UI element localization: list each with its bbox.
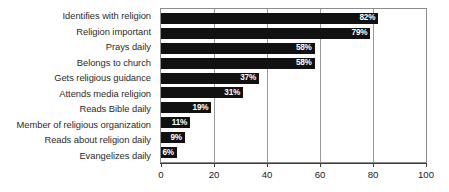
- bar-row: 31%: [161, 86, 426, 101]
- bar-value-label: 31%: [224, 89, 240, 97]
- bar: 9%: [161, 132, 185, 143]
- bar-chart: Identifies with religion Religion import…: [0, 0, 449, 192]
- category-label: Reads Bible daily: [0, 101, 156, 117]
- bar-row: 58%: [161, 56, 426, 71]
- bar-row: 19%: [161, 100, 426, 115]
- bar-value-label: 9%: [170, 134, 181, 142]
- bar-row: 79%: [161, 26, 426, 41]
- x-axis-tick-label: 20: [209, 169, 220, 180]
- bar: 19%: [161, 102, 211, 113]
- bar-row: 37%: [161, 71, 426, 86]
- category-label: Identifies with religion: [0, 8, 156, 24]
- x-axis-tick-label: 100: [418, 169, 434, 180]
- bar: 6%: [161, 147, 177, 158]
- category-label: Gets religious guidance: [0, 70, 156, 86]
- category-label: Attends media religion: [0, 86, 156, 102]
- bar-value-label: 6%: [162, 149, 173, 157]
- bar: 79%: [161, 28, 370, 39]
- bar: 58%: [161, 43, 315, 54]
- x-axis-tick: [267, 163, 268, 167]
- bar-row: 58%: [161, 41, 426, 56]
- bar: 37%: [161, 73, 259, 84]
- category-label: Belongs to church: [0, 55, 156, 71]
- bar-row: 9%: [161, 130, 426, 145]
- x-axis-line: [160, 163, 427, 164]
- bar: 58%: [161, 58, 315, 69]
- category-label: Prays daily: [0, 39, 156, 55]
- bar-value-label: 37%: [240, 74, 256, 82]
- x-axis-tick-label: 60: [315, 169, 326, 180]
- bar-series: 82% 79% 58% 58% 37% 31% 19% 11% 9% 6%: [161, 9, 426, 162]
- x-axis-tick: [214, 163, 215, 167]
- category-label: Evangelizes daily: [0, 148, 156, 164]
- x-axis-tick-label: 40: [262, 169, 273, 180]
- plot-area: 82% 79% 58% 58% 37% 31% 19% 11% 9% 6%: [160, 8, 427, 163]
- x-axis: 020406080100: [160, 163, 427, 192]
- x-axis-tick-label: 0: [158, 169, 163, 180]
- x-axis-tick: [161, 163, 162, 167]
- x-axis-tick-label: 80: [368, 169, 379, 180]
- x-axis-tick: [320, 163, 321, 167]
- category-axis-labels: Identifies with religion Religion import…: [0, 8, 156, 163]
- bar-row: 6%: [161, 145, 426, 160]
- category-label: Member of religious organization: [0, 117, 156, 133]
- bar-value-label: 79%: [352, 29, 368, 37]
- bar-row: 11%: [161, 115, 426, 130]
- bar-value-label: 19%: [193, 104, 209, 112]
- bar-row: 82%: [161, 11, 426, 26]
- bar-value-label: 58%: [296, 59, 312, 67]
- category-label: Reads about religion daily: [0, 132, 156, 148]
- bar-value-label: 11%: [172, 119, 187, 127]
- category-label: Religion important: [0, 24, 156, 40]
- x-axis-tick: [426, 163, 427, 167]
- x-axis-tick: [373, 163, 374, 167]
- bar: 31%: [161, 87, 243, 98]
- bar-value-label: 58%: [296, 44, 312, 52]
- bar: 82%: [161, 13, 378, 24]
- bar-value-label: 82%: [360, 14, 376, 22]
- bar: 11%: [161, 117, 190, 128]
